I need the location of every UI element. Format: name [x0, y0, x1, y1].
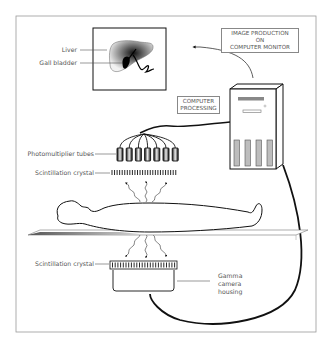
label-liver: Liver [30, 46, 77, 54]
patient-body [57, 201, 262, 232]
gamma-ray-arrow [145, 182, 147, 202]
label-gamma-camera-line1: Gamma [218, 272, 242, 280]
pmt-wire [138, 134, 144, 148]
computer-display-slot [238, 97, 264, 101]
gamma-ray-arrow [126, 183, 140, 202]
photomultiplier-tube [126, 148, 132, 161]
computer-tower[interactable] [230, 84, 283, 169]
label-image-production-line3: COMPUTER MONITOR [224, 44, 296, 51]
label-image-production-line1: IMAGE PRODUCTION [224, 30, 296, 37]
gamma-rays-downward [126, 234, 166, 257]
computer-side-face [276, 84, 283, 169]
photomultiplier-tube [145, 148, 151, 161]
label-image-production-box: IMAGE PRODUCTION ON COMPUTER MONITOR [221, 28, 299, 53]
gamma-camera-housing [113, 270, 174, 291]
photomultiplier-tube [117, 148, 123, 161]
label-scintillation-crystal-bottom: Scintillation crystal [10, 260, 94, 268]
drive-bay [234, 140, 240, 166]
label-computer-processing-line2: PROCESSING [180, 105, 217, 112]
computer-to-pmt-cable [140, 122, 230, 133]
label-scintillation-crystal-top: Scintillation crystal [10, 169, 94, 177]
computer-top-face [230, 84, 283, 89]
gamma-ray-arrow [126, 234, 140, 256]
scintillation-crystal-upper [112, 170, 176, 175]
photomultiplier-tube [154, 148, 160, 161]
scintillation-crystal-lower [110, 261, 177, 269]
label-photomultiplier-tubes: Photomultiplier tubes [10, 150, 94, 158]
label-gamma-camera-line3: housing [218, 288, 242, 296]
drive-bay [256, 140, 262, 166]
label-computer-processing-box: COMPUTER PROCESSING [177, 96, 220, 114]
photomultiplier-tube-array [117, 134, 178, 161]
gamma-rays-upward [126, 182, 166, 202]
computer-to-camera-cable [150, 165, 301, 324]
photomultiplier-tube [135, 148, 141, 161]
photomultiplier-tube [172, 148, 178, 161]
label-image-production-line2: ON [224, 37, 296, 44]
computer-drive-slot [243, 110, 261, 113]
gamma-camera-head[interactable] [110, 261, 177, 291]
gamma-ray-arrow [145, 234, 147, 257]
drive-bay [267, 140, 273, 166]
label-gall-bladder: Gall bladder [20, 59, 77, 67]
monitor-image [80, 28, 166, 90]
label-gamma-camera-housing: Gamma camera housing [218, 272, 242, 296]
pmt-wire [144, 134, 148, 148]
gamma-ray-arrow [152, 234, 166, 256]
label-gamma-camera-line2: camera [218, 280, 242, 288]
drive-bay [245, 140, 251, 166]
photomultiplier-tube [163, 148, 169, 161]
label-computer-processing-line1: COMPUTER [180, 98, 217, 105]
gamma-ray-arrow [152, 183, 166, 202]
